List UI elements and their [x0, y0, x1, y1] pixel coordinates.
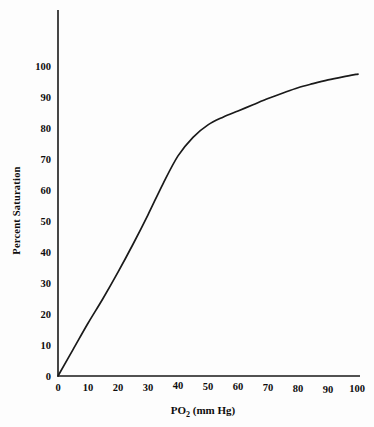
y-tick-100: 100 [35, 61, 51, 72]
oxygen-dissociation-curve-chart: 0 10 20 30 40 50 60 70 80 90 100 0 10 20… [0, 0, 374, 427]
y-tick-30: 30 [41, 278, 52, 289]
x-tick-50: 50 [203, 381, 214, 392]
x-axis-title-main: PO [171, 404, 187, 416]
x-tick-30: 30 [143, 382, 154, 393]
y-tick-10: 10 [41, 340, 52, 351]
y-tick-20: 20 [41, 309, 52, 320]
x-tick-40: 40 [173, 380, 184, 391]
x-tick-0: 0 [55, 382, 60, 393]
y-tick-90: 90 [41, 92, 52, 103]
y-tick-80: 80 [41, 123, 52, 134]
y-tick-0: 0 [46, 371, 51, 382]
x-tick-10: 10 [83, 382, 94, 393]
y-tick-40: 40 [41, 247, 52, 258]
x-tick-100: 100 [349, 383, 365, 394]
chart-figure: 0 10 20 30 40 50 60 70 80 90 100 0 10 20… [0, 0, 374, 427]
y-tick-60: 60 [41, 185, 52, 196]
x-axis-title-units: (mm Hg) [193, 404, 236, 417]
y-tick-50: 50 [41, 216, 52, 227]
x-tick-70: 70 [263, 382, 274, 393]
x-tick-80: 80 [293, 383, 304, 394]
x-tick-60: 60 [233, 381, 244, 392]
x-tick-90: 90 [323, 384, 334, 395]
y-tick-70: 70 [41, 154, 52, 165]
x-tick-20: 20 [113, 382, 124, 393]
chart-background [0, 0, 374, 427]
